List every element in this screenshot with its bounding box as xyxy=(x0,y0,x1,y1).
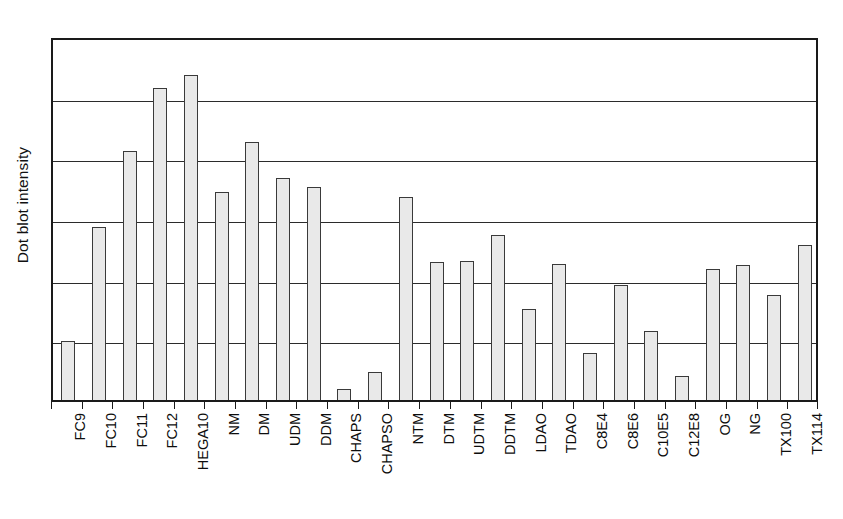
x-axis-label-slot: TX100 xyxy=(756,409,788,517)
x-axis-label-slot: OG xyxy=(695,409,727,517)
bar[interactable] xyxy=(153,88,167,400)
y-axis-title-area: Dot blot intensity xyxy=(0,0,46,410)
x-axis-label: TX114 xyxy=(803,413,818,454)
bar[interactable] xyxy=(675,376,689,400)
x-axis-labels: FC9FC10FC11FC12HEGA10NMDMUDMDDMCHAPSCHAP… xyxy=(51,409,818,519)
x-axis-tick xyxy=(450,402,451,409)
x-axis-label-slot: DDTM xyxy=(480,409,512,517)
x-axis-tick xyxy=(388,402,389,409)
x-axis-tick xyxy=(112,402,113,409)
x-axis-label-slot: CHAPS xyxy=(326,409,358,517)
x-axis-label-slot: FC12 xyxy=(142,409,174,517)
x-axis-label: NG xyxy=(741,413,756,434)
x-axis-tick xyxy=(573,402,574,409)
x-axis-tick xyxy=(726,402,727,409)
x-axis-tick xyxy=(143,402,144,409)
bar[interactable] xyxy=(767,295,781,400)
bar[interactable] xyxy=(123,151,137,400)
x-axis-label: TDAO xyxy=(557,413,572,452)
x-axis-label-slot: TX114 xyxy=(787,409,819,517)
x-axis-label-text: TX114 xyxy=(810,413,825,455)
bar[interactable] xyxy=(61,341,75,400)
chart-figure: Dot blot intensity FC9FC10FC11FC12HEGA10… xyxy=(0,0,843,519)
bar[interactable] xyxy=(460,261,474,400)
x-axis-tick xyxy=(358,402,359,409)
bar[interactable] xyxy=(614,285,628,400)
bar[interactable] xyxy=(276,178,290,400)
bar[interactable] xyxy=(644,331,658,400)
x-axis-label: FC10 xyxy=(97,413,112,447)
x-axis-label: UDM xyxy=(281,413,296,445)
x-axis-label-slot: HEGA10 xyxy=(173,409,205,517)
bar[interactable] xyxy=(368,372,382,400)
bar[interactable] xyxy=(184,75,198,400)
bar[interactable] xyxy=(430,262,444,400)
bar[interactable] xyxy=(522,309,536,400)
x-axis-tick xyxy=(235,402,236,409)
y-axis-title: Dot blot intensity xyxy=(14,147,32,263)
x-axis-label-slot: NM xyxy=(204,409,236,517)
x-axis-label-slot: C8E4 xyxy=(572,409,604,517)
x-axis-label-slot: DDM xyxy=(296,409,328,517)
x-axis-label: NM xyxy=(220,413,235,435)
bar-series xyxy=(53,40,816,400)
plot-area xyxy=(51,38,818,402)
x-axis-label: OG xyxy=(711,413,726,435)
x-axis-label-slot: UDTM xyxy=(449,409,481,517)
x-axis-tick xyxy=(787,402,788,409)
bar[interactable] xyxy=(307,187,321,400)
x-axis-tick xyxy=(174,402,175,409)
x-axis-tick xyxy=(511,402,512,409)
x-axis-label: UDTM xyxy=(465,413,480,454)
x-axis-label: LDAO xyxy=(527,413,542,452)
x-axis-label-slot: C12E8 xyxy=(664,409,696,517)
x-axis-label-slot: LDAO xyxy=(511,409,543,517)
bar[interactable] xyxy=(491,235,505,400)
x-axis-label: C12E8 xyxy=(680,413,695,456)
bar[interactable] xyxy=(92,227,106,400)
bar[interactable] xyxy=(552,264,566,400)
x-axis-tick xyxy=(204,402,205,409)
x-axis-label-slot: CHAPSO xyxy=(357,409,389,517)
x-axis-label: FC12 xyxy=(158,413,173,447)
x-axis-label: NTM xyxy=(404,413,419,443)
x-axis-tick xyxy=(665,402,666,409)
x-axis-tick xyxy=(757,402,758,409)
x-axis-tick xyxy=(419,402,420,409)
bar[interactable] xyxy=(736,265,750,400)
bar[interactable] xyxy=(583,353,597,400)
bar[interactable] xyxy=(215,192,229,400)
x-axis-label: TX100 xyxy=(772,413,787,455)
x-axis-tick xyxy=(542,402,543,409)
x-axis-tick xyxy=(296,402,297,409)
x-axis-label-slot: NG xyxy=(725,409,757,517)
x-axis-label: HEGA10 xyxy=(189,413,204,469)
x-axis-label: C10E5 xyxy=(649,413,664,456)
x-axis-tick xyxy=(51,402,52,409)
x-axis-label: C8E4 xyxy=(588,413,603,448)
x-axis-label: DTM xyxy=(435,413,450,443)
x-axis-label: CHAPSO xyxy=(373,413,388,473)
x-axis-label-slot: UDM xyxy=(265,409,297,517)
x-axis-label-slot: C8E6 xyxy=(603,409,635,517)
x-axis-tick xyxy=(695,402,696,409)
bar[interactable] xyxy=(706,269,720,400)
x-axis-label: DM xyxy=(250,413,265,435)
x-axis-tick xyxy=(603,402,604,409)
x-axis-label-slot: TDAO xyxy=(541,409,573,517)
x-axis-label-slot: C10E5 xyxy=(633,409,665,517)
x-axis-label-slot: FC9 xyxy=(50,409,82,517)
x-axis-ticks xyxy=(51,402,818,409)
x-axis-label: FC9 xyxy=(66,413,81,439)
x-axis-tick xyxy=(266,402,267,409)
x-axis-label: DDM xyxy=(312,413,327,445)
bar[interactable] xyxy=(399,197,413,400)
x-axis-tick xyxy=(82,402,83,409)
bar[interactable] xyxy=(245,142,259,400)
x-axis-label: DDTM xyxy=(496,413,511,454)
bar[interactable] xyxy=(798,245,812,400)
x-axis-label-slot: FC11 xyxy=(112,409,144,517)
x-axis-label-slot: NTM xyxy=(388,409,420,517)
x-axis-tick xyxy=(327,402,328,409)
bar[interactable] xyxy=(337,389,351,400)
